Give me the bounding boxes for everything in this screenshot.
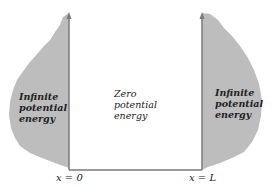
right-label-line-2: potential: [215, 98, 263, 109]
x-zero-label: x = 0: [56, 172, 83, 183]
middle-label-line-1: Zero: [114, 88, 157, 99]
left-label-line-2: potential: [19, 102, 67, 113]
left-label-line-1: Infinite: [19, 91, 67, 102]
middle-label-line-3: energy: [114, 110, 157, 121]
right-label-line-3: energy: [215, 109, 263, 120]
middle-label-line-2: potential: [114, 99, 157, 110]
left-region-label: Infinite potential energy: [19, 91, 67, 124]
left-label-line-3: energy: [19, 113, 67, 124]
right-region-label: Infinite potential energy: [215, 87, 263, 120]
middle-region-label: Zero potential energy: [114, 88, 157, 121]
right-label-line-1: Infinite: [215, 87, 263, 98]
x-L-label: x = L: [189, 172, 216, 183]
